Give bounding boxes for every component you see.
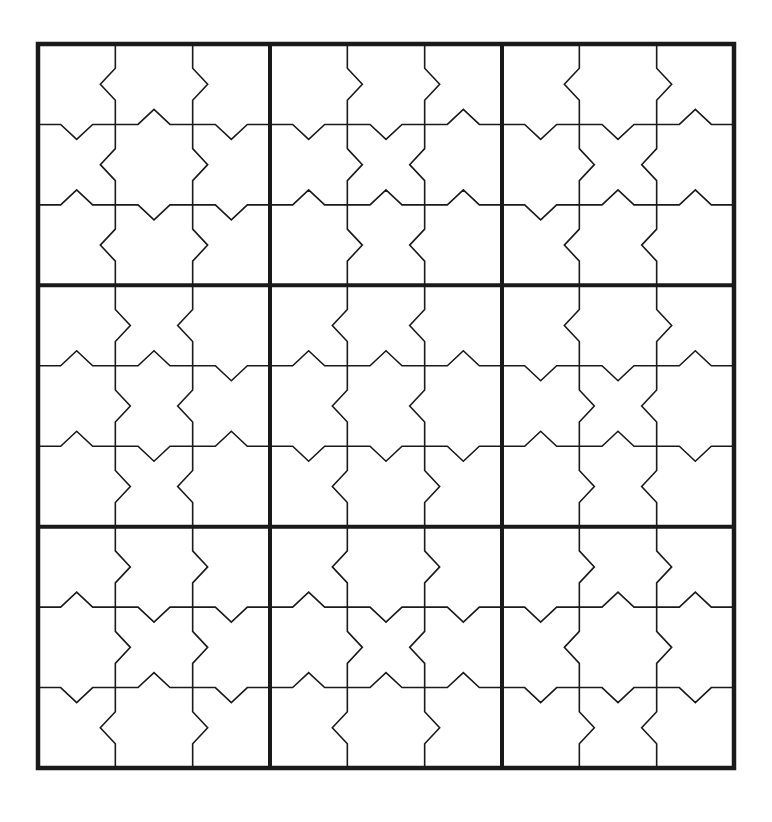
cell-r1c4[interactable]: [270, 44, 347, 124]
cell-r1c3[interactable]: [193, 44, 270, 124]
cell-r6c6[interactable]: [425, 446, 502, 526]
cell-r7c5[interactable]: [347, 527, 424, 607]
cell-r1c9[interactable]: [657, 44, 734, 124]
cell-r3c4[interactable]: [270, 205, 347, 285]
cell-r6c5[interactable]: [347, 446, 424, 526]
cell-r8c6[interactable]: [425, 607, 502, 687]
cell-r7c9[interactable]: [657, 527, 734, 607]
cell-r3c9[interactable]: [657, 205, 734, 285]
cell-r8c2[interactable]: [115, 607, 192, 687]
cell-r6c4[interactable]: [270, 446, 347, 526]
cell-r9c9[interactable]: [657, 688, 734, 768]
cell-r9c1[interactable]: [38, 688, 115, 768]
cell-r5c8[interactable]: [579, 366, 656, 446]
cell-r5c6[interactable]: [425, 366, 502, 446]
cell-r8c7[interactable]: [502, 607, 579, 687]
cell-r1c8[interactable]: [579, 44, 656, 124]
cell-r3c1[interactable]: [38, 205, 115, 285]
cell-r3c7[interactable]: [502, 205, 579, 285]
cell-r7c7[interactable]: [502, 527, 579, 607]
cell-r6c8[interactable]: [579, 446, 656, 526]
cell-r2c3[interactable]: [193, 124, 270, 204]
cell-r8c3[interactable]: [193, 607, 270, 687]
cell-r9c2[interactable]: [115, 688, 192, 768]
cell-r2c2[interactable]: [115, 124, 192, 204]
cell-r3c5[interactable]: [347, 205, 424, 285]
cell-r4c3[interactable]: [193, 285, 270, 365]
cell-r2c7[interactable]: [502, 124, 579, 204]
cell-r5c1[interactable]: [38, 366, 115, 446]
cell-r7c4[interactable]: [270, 527, 347, 607]
cell-r1c5[interactable]: [347, 44, 424, 124]
cell-r9c5[interactable]: [347, 688, 424, 768]
cell-r9c7[interactable]: [502, 688, 579, 768]
cell-r2c1[interactable]: [38, 124, 115, 204]
cell-r8c8[interactable]: [579, 607, 656, 687]
cell-r8c9[interactable]: [657, 607, 734, 687]
cell-r6c7[interactable]: [502, 446, 579, 526]
cell-r5c9[interactable]: [657, 366, 734, 446]
cells-layer: [38, 44, 734, 768]
cell-r9c4[interactable]: [270, 688, 347, 768]
cell-r4c4[interactable]: [270, 285, 347, 365]
cell-r6c2[interactable]: [115, 446, 192, 526]
cell-r1c2[interactable]: [115, 44, 192, 124]
cell-r2c8[interactable]: [579, 124, 656, 204]
cell-r6c9[interactable]: [657, 446, 734, 526]
cell-r8c1[interactable]: [38, 607, 115, 687]
cell-r7c1[interactable]: [38, 527, 115, 607]
cell-r9c6[interactable]: [425, 688, 502, 768]
cell-r5c5[interactable]: [347, 366, 424, 446]
cell-r2c4[interactable]: [270, 124, 347, 204]
cell-r5c7[interactable]: [502, 366, 579, 446]
cell-r6c1[interactable]: [38, 446, 115, 526]
cell-r2c6[interactable]: [425, 124, 502, 204]
cell-r1c6[interactable]: [425, 44, 502, 124]
cell-r2c5[interactable]: [347, 124, 424, 204]
cell-r3c3[interactable]: [193, 205, 270, 285]
cell-r7c8[interactable]: [579, 527, 656, 607]
cell-r4c8[interactable]: [579, 285, 656, 365]
cell-r9c8[interactable]: [579, 688, 656, 768]
cell-r6c3[interactable]: [193, 446, 270, 526]
cell-r7c2[interactable]: [115, 527, 192, 607]
cell-r7c6[interactable]: [425, 527, 502, 607]
cell-r4c5[interactable]: [347, 285, 424, 365]
cell-r5c4[interactable]: [270, 366, 347, 446]
cell-r4c1[interactable]: [38, 285, 115, 365]
cell-r4c6[interactable]: [425, 285, 502, 365]
cell-r3c2[interactable]: [115, 205, 192, 285]
cell-r1c7[interactable]: [502, 44, 579, 124]
cell-r4c9[interactable]: [657, 285, 734, 365]
cell-r5c2[interactable]: [115, 366, 192, 446]
cell-r4c2[interactable]: [115, 285, 192, 365]
cell-r8c5[interactable]: [347, 607, 424, 687]
cell-r2c9[interactable]: [657, 124, 734, 204]
puzzle-board: [0, 0, 772, 822]
cell-r3c8[interactable]: [579, 205, 656, 285]
cell-r8c4[interactable]: [270, 607, 347, 687]
cell-r4c7[interactable]: [502, 285, 579, 365]
cell-r5c3[interactable]: [193, 366, 270, 446]
cell-r1c1[interactable]: [38, 44, 115, 124]
cell-r3c6[interactable]: [425, 205, 502, 285]
cell-r7c3[interactable]: [193, 527, 270, 607]
cell-r9c3[interactable]: [193, 688, 270, 768]
